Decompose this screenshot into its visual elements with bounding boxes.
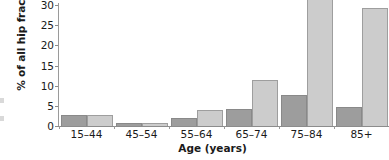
x-tick-mark bbox=[169, 126, 170, 129]
x-tick-mark bbox=[334, 126, 335, 129]
x-axis-title: Age (years) bbox=[0, 142, 389, 154]
bar-series-1-15-44 bbox=[61, 115, 87, 126]
bar-series-1-65-74 bbox=[226, 109, 252, 126]
x-axis-title-text: Age (years) bbox=[142, 142, 247, 154]
x-tick-label: 65–74 bbox=[236, 128, 268, 140]
x-tick-mark bbox=[114, 126, 115, 129]
x-tick-mark bbox=[59, 126, 60, 129]
x-tick-label: 55–64 bbox=[181, 128, 213, 140]
bar-series-1-55-64 bbox=[171, 118, 197, 126]
y-axis-title: % of all hip fractures bbox=[15, 0, 27, 95]
y-tick-label: 0 bbox=[47, 120, 54, 132]
edge-artifact-upper bbox=[0, 98, 4, 103]
y-tick-label: 5 bbox=[47, 100, 54, 112]
x-tick-mark bbox=[224, 126, 225, 129]
bar-series-1-45-54 bbox=[116, 123, 142, 126]
x-tick-label: 15–44 bbox=[71, 128, 103, 140]
x-tick-label: 45–54 bbox=[126, 128, 158, 140]
y-tick-label: 15 bbox=[41, 60, 54, 72]
bar-series-1-85+ bbox=[336, 107, 362, 126]
bar-series-2-75-84 bbox=[307, 0, 333, 126]
bar-series-2-65-74 bbox=[252, 80, 278, 126]
x-tick-label: 85+ bbox=[350, 128, 372, 140]
hip-fracture-bar-chart: % of all hip fractures 051015202530 Age … bbox=[0, 0, 389, 160]
y-tick-label: 30 bbox=[41, 0, 54, 11]
bar-series-2-45-54 bbox=[142, 123, 168, 126]
x-tick-mark bbox=[279, 126, 280, 129]
bar-series-2-55-64 bbox=[197, 110, 223, 126]
y-tick-label: 10 bbox=[41, 80, 54, 92]
y-tick-label: 20 bbox=[41, 39, 54, 51]
edge-artifact-lower bbox=[0, 116, 4, 121]
y-axis-ticks: 051015202530 bbox=[34, 0, 54, 160]
bar-series-2-15-44 bbox=[87, 115, 113, 126]
x-tick-label: 75–84 bbox=[291, 128, 323, 140]
plot-area bbox=[59, 0, 389, 126]
y-tick-label: 25 bbox=[41, 19, 54, 31]
bar-series-2-85+ bbox=[362, 8, 388, 126]
bar-series-1-75-84 bbox=[281, 95, 307, 126]
